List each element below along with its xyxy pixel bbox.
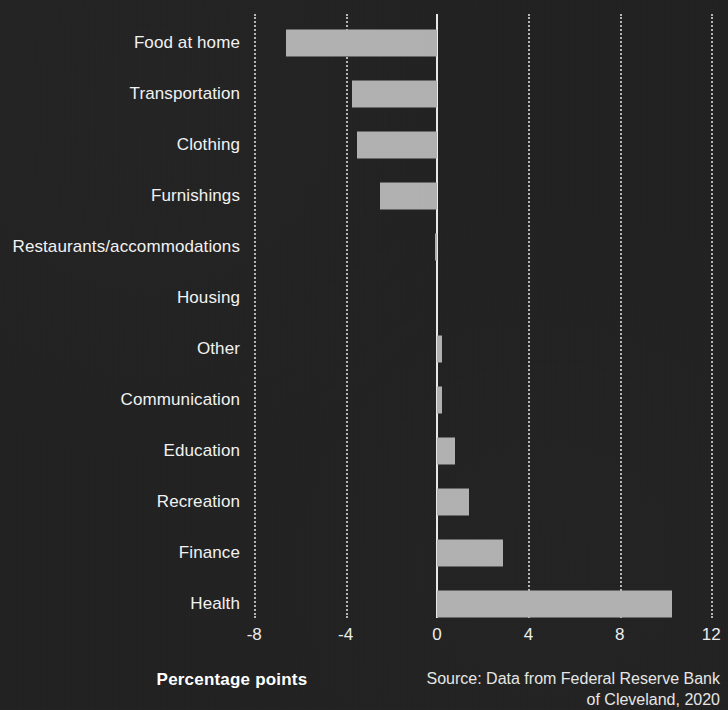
bar-row[interactable]: Transportation [0,68,728,119]
bar-row[interactable]: Finance [0,527,728,578]
x-tick-label-12: 12 [702,625,721,645]
bar[interactable] [437,590,672,617]
bar-chart-plot-area: Food at homeTransportationClothingFurnis… [0,0,728,710]
bar[interactable] [437,386,442,413]
category-label-housing: Housing [177,288,240,308]
category-label-finance: Finance [179,543,240,563]
category-label-health: Health [190,594,240,614]
category-label-communication: Communication [121,390,240,410]
x-tick-label-4: 4 [524,625,533,645]
source-line-2: of Cleveland, 2020 [390,689,720,710]
bar-row[interactable]: Furnishings [0,170,728,221]
bar[interactable] [437,437,455,464]
category-label-recreation: Recreation [157,492,240,512]
bar-row[interactable]: Food at home [0,17,728,68]
bar-row[interactable]: Recreation [0,476,728,527]
category-label-furnishings: Furnishings [151,186,240,206]
bar-row[interactable]: Education [0,425,728,476]
bar-row[interactable]: Housing [0,272,728,323]
category-label-transportation: Transportation [130,84,240,104]
bar-row[interactable]: Clothing [0,119,728,170]
category-label-restaurants-accommodations: Restaurants/accommodations [13,237,241,257]
bar[interactable] [357,131,437,158]
category-label-clothing: Clothing [177,135,240,155]
category-label-other: Other [197,339,240,359]
x-tick-label-0: 0 [432,625,441,645]
bar[interactable] [437,539,503,566]
bar[interactable] [286,29,437,56]
bar-row[interactable]: Other [0,323,728,374]
source-line-1: Source: Data from Federal Reserve Bank [390,668,720,689]
chart-page: Food at homeTransportationClothingFurnis… [0,0,728,710]
bar[interactable] [435,233,437,260]
category-label-food-at-home: Food at home [134,33,240,53]
x-tick-label--4: -4 [338,625,353,645]
source-note: Source: Data from Federal Reserve Bank o… [390,668,720,710]
x-tick-label--8: -8 [247,625,262,645]
bar-row[interactable]: Health [0,578,728,629]
bar[interactable] [380,182,437,209]
bar-row[interactable]: Communication [0,374,728,425]
bar[interactable] [352,80,437,107]
bar[interactable] [437,488,469,515]
category-label-education: Education [163,441,240,461]
bar-row[interactable]: Restaurants/accommodations [0,221,728,272]
bar[interactable] [437,335,442,362]
x-tick-label-8: 8 [615,625,624,645]
